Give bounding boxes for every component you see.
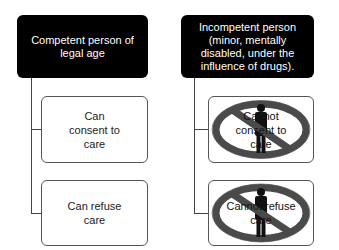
left-connector-vertical [31,78,32,214]
cannot-consent-label: Cannot consent to care [226,109,296,151]
cannot-refuse-label: Cannot refuse care [221,199,301,227]
cannot-consent-box: Cannot consent to care [208,96,314,163]
can-consent-box: Can consent to care [41,96,148,163]
competent-person-header: Competent person of legal age [17,15,148,78]
can-consent-label: Can consent to care [65,109,125,151]
incompetent-person-header-text: Incompetent person (minor, mentally disa… [192,21,304,73]
can-refuse-box: Can refuse care [41,180,148,246]
competent-person-header-text: Competent person of legal age [28,34,138,60]
incompetent-person-header: Incompetent person (minor, mentally disa… [181,15,314,78]
left-connector-branch-2 [31,213,41,214]
right-connector-vertical [194,78,195,214]
can-refuse-label: Can refuse care [65,199,125,227]
right-connector-branch-1 [194,129,208,130]
right-connector-branch-2 [194,213,208,214]
cannot-refuse-box: Cannot refuse care [208,180,314,246]
left-connector-branch-1 [31,129,41,130]
